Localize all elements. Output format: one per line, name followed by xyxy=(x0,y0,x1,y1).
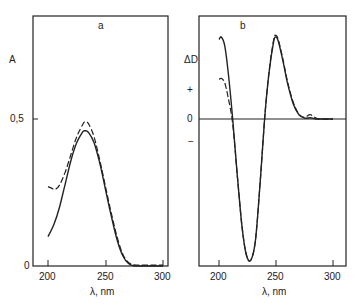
panel-a-xtick-300-label: 300 xyxy=(154,272,171,282)
panel-b-frame xyxy=(199,16,346,266)
panel-a-ytick-0-label: 0 xyxy=(24,261,30,271)
panel-b-ytick-zero: 0 xyxy=(187,114,193,124)
panel-b-ytick-minus: − xyxy=(188,137,194,147)
figure: a A 0,5 0 200 250 300 λ, nm b ΔD + 0 − 2… xyxy=(0,0,363,308)
panel-a-xtick-200-label: 200 xyxy=(39,272,56,282)
panel-b-xtick-250-label: 250 xyxy=(267,272,284,282)
panel-a-xtick-250-label: 250 xyxy=(97,272,114,282)
panel-a-ylabel: A xyxy=(9,55,16,65)
panel-b-ytick-plus: + xyxy=(187,85,193,95)
panel-a-label: a xyxy=(98,21,104,31)
panel-a-dashed-curve xyxy=(48,122,163,265)
panel-b-label: b xyxy=(240,21,246,31)
panel-b-xtick-200-label: 200 xyxy=(210,272,227,282)
panel-b-dashed-curve xyxy=(219,35,333,261)
panel-a xyxy=(33,16,168,266)
chart-svg xyxy=(0,0,363,308)
panel-b xyxy=(199,16,346,266)
panel-b-xlabel: λ, nm xyxy=(262,287,286,297)
panel-a-solid-curve xyxy=(48,131,163,266)
panel-b-xtick-300-label: 300 xyxy=(324,272,341,282)
panel-b-solid-curve xyxy=(219,37,333,261)
panel-a-frame xyxy=(33,16,168,266)
panel-a-xlabel: λ, nm xyxy=(90,287,114,297)
panel-b-ylabel: ΔD xyxy=(184,55,198,65)
panel-a-ytick-05-label: 0,5 xyxy=(10,114,24,124)
